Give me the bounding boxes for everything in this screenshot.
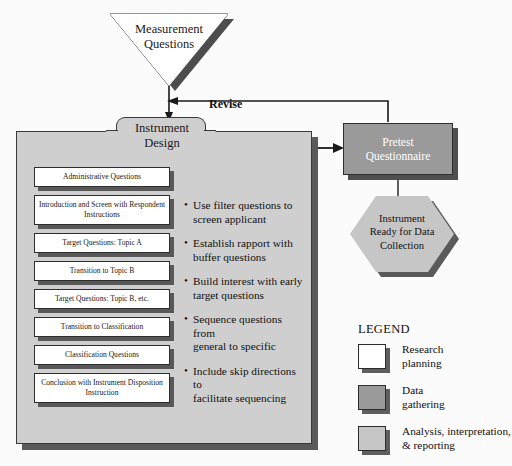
instrument-design-title-line2: Design [102,136,222,151]
guideline-line2: buffer questions [193,251,306,265]
legend-item: Research planning [358,344,508,378]
outcome-line3: Collection [350,239,454,252]
legend: LEGEND Research planning Data gathering [358,322,508,466]
guideline-line1: Include skip directions to [193,365,306,392]
question-box-face: Transition to Topic B [34,261,170,281]
guideline-line1: Build interest with early [193,275,306,289]
guideline-line2: target questions [193,289,306,303]
question-box-face: Administrative Questions [34,167,170,187]
question-box-face: Transition to Classification [34,317,170,337]
pretest-label-line1: Pretest [366,135,431,149]
guideline-item: Use filter questions to screen applicant [184,199,306,226]
legend-item-text: Analysis, interpretation, & reporting [402,425,512,453]
question-box[interactable]: Introduction and Screen with Respondent … [34,195,170,225]
legend-line1: Research [402,343,512,357]
legend-item-text: Research planning [402,343,512,371]
guideline-line1: Establish rapport with [193,237,306,251]
question-box[interactable]: Target Questions: Topic B, etc. [34,289,170,309]
guideline-item: Include skip directions to facilitate se… [184,365,306,406]
measurement-label-line1: Measurement [110,22,228,37]
question-box-label: Transition to Topic B [70,266,135,276]
measurement-questions-node[interactable]: Measurement Questions [110,14,234,92]
legend-item-text: Data gathering [402,384,512,412]
question-box-face: Introduction and Screen with Respondent … [34,195,170,225]
legend-swatch-face [358,426,386,451]
question-box-label: Target Questions: Topic A [62,238,141,248]
question-box-list: Administrative Questions Introduction an… [34,167,174,411]
pretest-face: Pretest Questionnaire [343,123,453,175]
question-box-face: Target Questions: Topic A [34,233,170,253]
legend-swatch [358,426,390,454]
question-box-face: Conclusion with Instrument Disposition I… [34,373,170,403]
legend-line2: & reporting [402,439,512,453]
question-box-label: Introduction and Screen with Respondent … [38,200,166,220]
question-box[interactable]: Transition to Topic B [34,261,170,281]
guideline-line1: Use filter questions to [193,199,306,213]
question-box-face: Classification Questions [34,345,170,365]
legend-line1: Data [402,384,512,398]
legend-swatch [358,344,390,372]
question-box-face: Target Questions: Topic B, etc. [34,289,170,309]
guideline-item: Sequence questions from general to speci… [184,313,306,354]
question-box[interactable]: Administrative Questions [34,167,170,187]
legend-swatch-face [358,385,386,410]
pretest-label-line2: Questionnaire [366,149,431,163]
instrument-ready-label: Instrument Ready for Data Collection [350,212,454,252]
question-box-label: Transition to Classification [61,322,143,332]
legend-line2: gathering [402,398,512,412]
legend-line1: Analysis, interpretation, [402,425,512,439]
question-box-label: Classification Questions [65,350,139,360]
question-box-label: Target Questions: Topic B, etc. [55,294,149,304]
legend-title: LEGEND [358,322,508,337]
guideline-line1: Sequence questions from [193,313,306,340]
instrument-design-title: Instrument Design [102,121,222,151]
legend-swatch [358,385,390,413]
guideline-item: Build interest with early target questio… [184,275,306,302]
legend-item: Analysis, interpretation, & reporting [358,426,508,460]
guideline-line2: screen applicant [193,213,306,227]
outcome-line2: Ready for Data [350,225,454,238]
instrument-ready-node[interactable]: Instrument Ready for Data Collection [350,196,460,278]
outcome-line1: Instrument [350,212,454,225]
guideline-item: Establish rapport with buffer questions [184,237,306,264]
revise-loop-path [176,101,388,122]
legend-swatch-face [358,344,386,369]
guideline-line2: facilitate sequencing [193,392,306,406]
question-box-label: Conclusion with Instrument Disposition I… [38,378,166,398]
question-box[interactable]: Transition to Classification [34,317,170,337]
revise-label: Revise [209,97,242,112]
pretest-questionnaire-node[interactable]: Pretest Questionnaire [343,123,453,175]
question-box[interactable]: Classification Questions [34,345,170,365]
guideline-list: Use filter questions to screen applicant… [184,199,306,417]
measurement-questions-label: Measurement Questions [110,22,228,53]
guideline-line2: general to specific [193,340,306,354]
instrument-design-title-line1: Instrument [102,121,222,136]
question-box[interactable]: Conclusion with Instrument Disposition I… [34,373,170,403]
measurement-label-line2: Questions [110,37,228,52]
legend-line2: planning [402,357,512,371]
question-box-label: Administrative Questions [63,172,141,182]
instrument-design-node[interactable]: Instrument Design Administrative Questio… [16,131,312,444]
pretest-label: Pretest Questionnaire [366,135,431,164]
question-box[interactable]: Target Questions: Topic A [34,233,170,253]
legend-item: Data gathering [358,385,508,419]
